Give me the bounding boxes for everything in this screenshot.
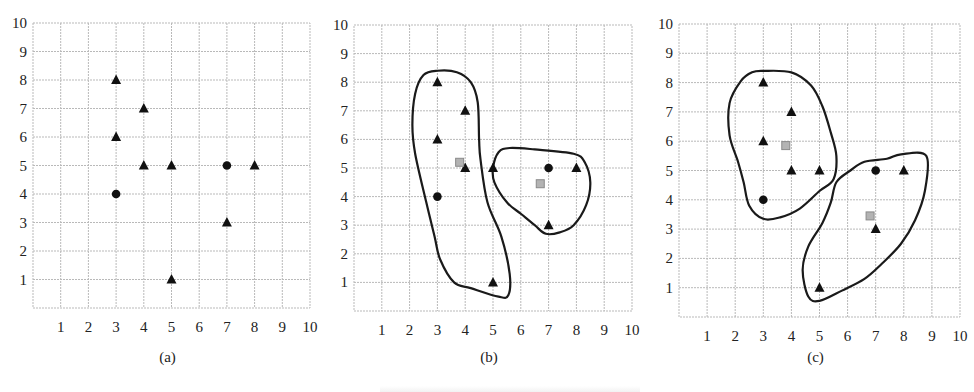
triangle-point — [544, 220, 554, 230]
triangle-point — [432, 77, 442, 87]
panel-label: (c) — [807, 349, 824, 366]
x-tick-label: 4 — [461, 322, 469, 338]
y-tick-label: 8 — [666, 75, 674, 91]
y-tick-label: 3 — [341, 217, 349, 233]
circle-point — [544, 164, 553, 173]
triangle-point — [871, 224, 881, 234]
y-tick-label: 4 — [20, 186, 28, 202]
x-tick-label: 7 — [545, 322, 553, 338]
centroid-square — [456, 158, 464, 166]
triangle-point — [758, 77, 768, 87]
triangle-point — [815, 165, 825, 175]
y-tick-label: 3 — [20, 215, 28, 231]
y-tick-label: 6 — [341, 131, 349, 147]
x-tick-label: 2 — [731, 328, 739, 344]
y-tick-label: 7 — [341, 103, 349, 119]
y-tick-label: 9 — [20, 44, 28, 60]
scatter-panel-c: 1234567891012345678910(c) — [658, 16, 968, 366]
y-tick-label: 2 — [20, 243, 28, 259]
triangle-point — [571, 163, 581, 173]
y-tick-label: 8 — [341, 74, 349, 90]
cluster-2-outline — [493, 148, 591, 234]
x-tick-label: 5 — [489, 322, 497, 338]
triangle-point — [250, 160, 260, 170]
centroid-square — [866, 212, 874, 220]
triangle-point — [432, 134, 442, 144]
triangle-point — [899, 165, 909, 175]
x-tick-label: 8 — [900, 328, 908, 344]
x-tick-label: 1 — [57, 319, 65, 335]
triangle-point — [460, 105, 470, 115]
y-tick-label: 1 — [666, 280, 674, 296]
triangle-point — [167, 274, 177, 284]
x-tick-label: 7 — [872, 328, 880, 344]
circle-point — [223, 161, 232, 170]
y-tick-label: 10 — [658, 16, 673, 32]
x-tick-label: 8 — [573, 322, 581, 338]
x-tick-label: 3 — [434, 322, 442, 338]
clustering-figure: 1234567891012345678910(a) 12345678910123… — [0, 0, 974, 392]
circle-point — [112, 190, 121, 199]
x-tick-label: 10 — [303, 319, 318, 335]
y-tick-label: 1 — [20, 272, 28, 288]
triangle-point — [815, 282, 825, 292]
x-tick-label: 5 — [816, 328, 824, 344]
y-tick-label: 2 — [341, 246, 349, 262]
scatter-panel-b: 1234567891012345678910(b) — [333, 17, 640, 366]
y-tick-label: 5 — [666, 163, 674, 179]
circle-point — [433, 192, 442, 201]
y-tick-label: 2 — [666, 250, 674, 266]
y-tick-label: 9 — [666, 45, 674, 61]
x-tick-label: 4 — [140, 319, 148, 335]
panel-label: (a) — [159, 349, 176, 366]
cluster-2-outline — [803, 153, 928, 302]
y-tick-label: 9 — [341, 46, 349, 62]
triangle-point — [139, 160, 149, 170]
scatter-panel-a: 1234567891012345678910(a) — [12, 15, 318, 366]
y-tick-label: 10 — [333, 17, 348, 33]
x-tick-label: 4 — [788, 328, 796, 344]
x-tick-label: 10 — [953, 328, 968, 344]
y-tick-label: 5 — [341, 160, 349, 176]
y-tick-label: 5 — [20, 158, 28, 174]
triangle-point — [139, 103, 149, 113]
y-tick-label: 10 — [12, 15, 27, 31]
triangle-point — [111, 75, 121, 85]
triangle-point — [786, 165, 796, 175]
y-tick-label: 6 — [666, 133, 674, 149]
y-tick-label: 4 — [666, 192, 674, 208]
x-tick-label: 9 — [928, 328, 936, 344]
y-tick-label: 7 — [20, 101, 28, 117]
triangle-point — [167, 160, 177, 170]
x-tick-label: 5 — [168, 319, 176, 335]
circle-point — [759, 196, 768, 205]
centroid-square — [782, 142, 790, 150]
x-tick-label: 6 — [517, 322, 525, 338]
x-tick-label: 6 — [195, 319, 203, 335]
x-tick-label: 1 — [703, 328, 711, 344]
triangle-point — [488, 277, 498, 287]
triangle-point — [786, 106, 796, 116]
circle-point — [871, 166, 880, 175]
x-tick-label: 2 — [406, 322, 414, 338]
triangle-point — [488, 163, 498, 173]
x-tick-label: 9 — [279, 319, 287, 335]
panel-label: (b) — [480, 349, 498, 366]
triangle-point — [758, 136, 768, 146]
y-tick-label: 1 — [341, 274, 349, 290]
x-tick-label: 3 — [760, 328, 768, 344]
triangle-point — [111, 132, 121, 142]
y-tick-label: 3 — [666, 221, 674, 237]
x-tick-label: 3 — [112, 319, 120, 335]
y-tick-label: 8 — [20, 72, 28, 88]
x-tick-label: 1 — [378, 322, 386, 338]
y-tick-label: 4 — [341, 189, 349, 205]
x-tick-label: 9 — [600, 322, 608, 338]
y-tick-label: 6 — [20, 129, 28, 145]
x-tick-label: 7 — [223, 319, 231, 335]
figure-caption-cropped — [380, 386, 640, 392]
centroid-square — [536, 180, 544, 188]
x-tick-label: 10 — [625, 322, 640, 338]
x-tick-label: 2 — [85, 319, 93, 335]
y-tick-label: 7 — [666, 104, 674, 120]
